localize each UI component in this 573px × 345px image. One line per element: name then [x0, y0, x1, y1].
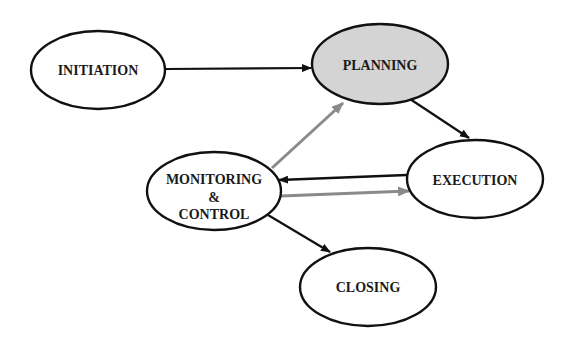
edge-execution-to-monitoring [279, 175, 407, 180]
node-label-line-3: CONTROL [179, 207, 250, 222]
edge-planning-to-execution [410, 99, 469, 138]
process-diagram: INITIATION PLANNING EXECUTION MONITORING… [0, 0, 573, 345]
node-label: EXECUTION [433, 173, 518, 188]
edge-monitoring-to-planning [272, 103, 343, 168]
edge-monitoring-to-execution [281, 191, 409, 196]
node-label: PLANNING [343, 58, 418, 73]
node-closing: CLOSING [300, 248, 436, 326]
edge-monitoring-to-closing [268, 215, 330, 252]
node-execution: EXECUTION [407, 140, 543, 218]
node-label-line-2: & [208, 190, 220, 205]
node-planning: PLANNING [312, 24, 448, 104]
node-monitoring-control: MONITORING & CONTROL [147, 152, 281, 230]
node-label-line-1: MONITORING [166, 172, 262, 187]
node-initiation: INITIATION [31, 31, 165, 109]
node-label: INITIATION [58, 63, 139, 78]
edge-initiation-to-planning [166, 68, 311, 69]
node-label: CLOSING [336, 280, 401, 295]
